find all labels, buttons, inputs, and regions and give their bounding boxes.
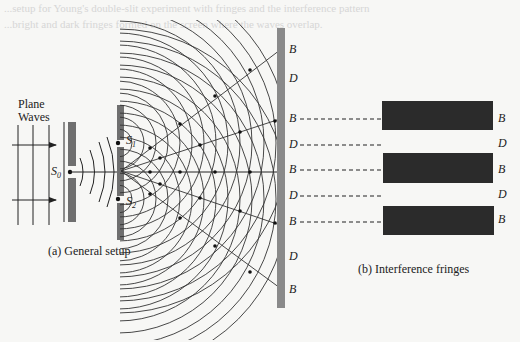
bright-fringe-3 <box>383 206 494 235</box>
interference-wavefronts <box>0 0 288 342</box>
single-slit-barrier <box>68 122 117 222</box>
caption-general-setup: (a) General setup <box>48 244 131 259</box>
screen-label-7: D <box>289 249 298 264</box>
bright-fringe-1 <box>382 101 493 130</box>
fringe-label-2: B <box>498 162 505 177</box>
slit-s1-label: S1 <box>126 133 136 149</box>
screen-label-2: B <box>289 111 296 126</box>
slit-s2-label: S2 <box>126 194 136 210</box>
fringe-label-1: D <box>498 136 507 151</box>
caption-interference-fringes: (b) Interference fringes <box>358 262 469 277</box>
screen-label-4: B <box>289 162 296 177</box>
double-slit-diagram: ...setup for Young's double-slit experim… <box>0 0 520 342</box>
plane-waves-label: Plane Waves <box>18 98 50 124</box>
viewing-screen <box>277 28 285 308</box>
screen-label-8: B <box>289 282 296 297</box>
screen-label-0: B <box>289 42 296 57</box>
screen-label-5: D <box>289 188 298 203</box>
s2-subscript: 2 <box>132 201 136 210</box>
fringe-label-3: D <box>498 187 507 202</box>
screen-label-1: D <box>289 71 298 86</box>
s0-subscript: 0 <box>57 171 61 180</box>
source-s0-label: S0 <box>51 164 61 180</box>
s1-subscript: 1 <box>132 140 136 149</box>
fringe-label-0: B <box>498 111 505 126</box>
projection-lines <box>300 119 381 222</box>
plane-waves-line-2: Waves <box>18 111 50 124</box>
screen-label-6: B <box>289 214 296 229</box>
screen-label-3: D <box>289 137 298 152</box>
bright-fringe-2 <box>383 153 493 183</box>
fringe-label-4: B <box>498 212 505 227</box>
